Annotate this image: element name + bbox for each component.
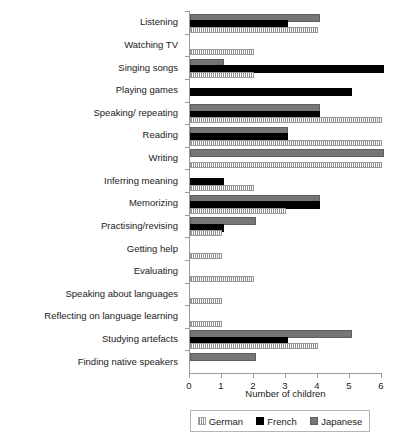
- bar-group: [190, 350, 383, 373]
- y-axis-tick: [185, 328, 189, 329]
- y-axis-tick: [185, 283, 189, 284]
- category-label: Singing songs: [118, 63, 178, 73]
- bar-group: [190, 283, 383, 306]
- legend-item-german: German: [198, 416, 243, 427]
- legend-label: Japanese: [321, 416, 362, 427]
- x-axis-tick: [317, 374, 318, 378]
- category-label: Practising/revising: [101, 221, 178, 231]
- bar-german: [190, 49, 254, 55]
- y-axis-tick: [185, 169, 189, 170]
- bar-german: [190, 230, 222, 236]
- bar-group: [190, 147, 383, 170]
- bar-group: [190, 260, 383, 283]
- bar-group: [190, 305, 383, 328]
- bar-chart-figure: ListeningWatching TVSinging songsPlaying…: [0, 0, 407, 445]
- bar-german: [190, 208, 286, 214]
- bar-german: [190, 343, 318, 349]
- bar-german: [190, 298, 222, 304]
- category-label: Reflecting on language learning: [44, 311, 178, 321]
- category-label: Speaking/ repeating: [93, 108, 178, 118]
- bar-german: [190, 117, 382, 123]
- bar-german: [190, 162, 382, 168]
- bar-german: [190, 27, 318, 33]
- y-axis-tick: [185, 215, 189, 216]
- bar-group: [190, 34, 383, 57]
- y-axis-tick: [185, 350, 189, 351]
- category-label: Getting help: [127, 244, 178, 254]
- x-axis-tick: [349, 374, 350, 378]
- chart-legend: GermanFrenchJapanese: [190, 410, 370, 432]
- bar-group: [190, 169, 383, 192]
- x-axis-title: Number of children: [189, 388, 382, 399]
- category-axis-labels: ListeningWatching TVSinging songsPlaying…: [0, 11, 184, 373]
- x-axis-tick: [381, 374, 382, 378]
- legend-item-french: French: [256, 416, 297, 427]
- bar-japanese: [190, 353, 256, 361]
- bar-german: [190, 276, 254, 282]
- category-label: Reading: [143, 130, 178, 140]
- y-axis-tick: [185, 11, 189, 12]
- category-label: Memorizing: [129, 198, 178, 208]
- category-label: Inferring meaning: [104, 176, 178, 186]
- y-axis-tick: [185, 237, 189, 238]
- legend-label: German: [209, 416, 243, 427]
- y-axis-tick: [185, 260, 189, 261]
- bar-german: [190, 185, 254, 191]
- bar-group: [190, 215, 383, 238]
- bar-group: [190, 102, 383, 125]
- y-axis-tick: [185, 124, 189, 125]
- category-label: Writing: [149, 153, 178, 163]
- bar-group: [190, 56, 383, 79]
- bar-german: [190, 140, 382, 146]
- x-axis-tick: [285, 374, 286, 378]
- y-axis-tick: [185, 56, 189, 57]
- bar-group: [190, 79, 383, 102]
- y-axis-tick: [185, 79, 189, 80]
- y-axis-tick: [185, 34, 189, 35]
- bar-group: [190, 11, 383, 34]
- y-axis-tick: [185, 147, 189, 148]
- bar-french: [190, 88, 352, 96]
- plot-area: 0123456: [189, 11, 382, 373]
- category-label: Playing games: [116, 85, 178, 95]
- y-axis-tick: [185, 192, 189, 193]
- x-axis-tick: [221, 374, 222, 378]
- category-label: Listening: [140, 17, 178, 27]
- category-label: Speaking about languages: [65, 289, 178, 299]
- category-label: Watching TV: [124, 40, 178, 50]
- bar-group: [190, 237, 383, 260]
- bar-german: [190, 321, 222, 327]
- category-label: Finding native speakers: [78, 357, 178, 367]
- legend-label: French: [267, 416, 297, 427]
- legend-item-japanese: Japanese: [310, 416, 362, 427]
- x-axis-tick: [189, 374, 190, 378]
- german-swatch: [198, 417, 206, 425]
- bar-japanese: [190, 149, 384, 157]
- bar-german: [190, 253, 222, 259]
- bar-group: [190, 192, 383, 215]
- y-axis-tick: [185, 102, 189, 103]
- category-label: Studying artefacts: [102, 334, 178, 344]
- category-label: Evaluating: [134, 266, 178, 276]
- japanese-swatch: [310, 417, 318, 425]
- bar-group: [190, 328, 383, 351]
- bar-german: [190, 72, 254, 78]
- x-axis-tick: [253, 374, 254, 378]
- bar-group: [190, 124, 383, 147]
- french-swatch: [256, 417, 264, 425]
- y-axis-tick: [185, 305, 189, 306]
